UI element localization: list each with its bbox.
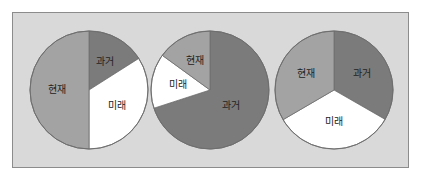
slice-label-present: 현재 bbox=[297, 68, 315, 79]
pie-chart-2: 과거미래현재 bbox=[151, 31, 269, 149]
pie-chart-1: 과거미래현재 bbox=[30, 31, 148, 149]
slice-label-past: 과거 bbox=[353, 68, 371, 79]
slice-label-future: 미래 bbox=[108, 100, 126, 111]
slice-label-present: 현재 bbox=[186, 55, 204, 66]
slice-label-future: 미래 bbox=[325, 116, 343, 127]
slice-label-past: 과거 bbox=[222, 100, 240, 111]
pie-charts: 과거미래현재 과거미래현재 과거미래현재 bbox=[0, 0, 421, 180]
slice-label-past: 과거 bbox=[96, 56, 114, 67]
slice-label-present: 현재 bbox=[48, 84, 66, 95]
slice-label-future: 미래 bbox=[169, 79, 187, 90]
pie-chart-3: 과거미래현재 bbox=[275, 31, 393, 149]
